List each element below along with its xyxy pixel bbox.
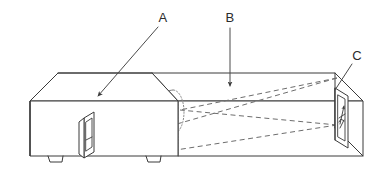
door-panel-face <box>84 112 94 158</box>
support-foot-right <box>146 156 161 162</box>
callout-c-label: C <box>352 48 362 63</box>
callout-a-label: A <box>159 10 168 25</box>
right-chamber <box>152 73 363 156</box>
technical-drawing-figure: A B C <box>0 0 374 186</box>
callout-b-label: B <box>226 10 235 25</box>
left-enclosure <box>30 73 178 162</box>
figure-canvas: A B C <box>0 0 374 186</box>
left-enclosure-top-face <box>30 73 178 101</box>
right-chamber-top-face <box>152 73 363 101</box>
end-panel-detail <box>335 88 348 148</box>
left-enclosure-front-face <box>30 101 178 156</box>
support-foot-left <box>48 156 63 162</box>
callout-c: C <box>335 48 362 90</box>
door-panel-side <box>79 118 84 158</box>
